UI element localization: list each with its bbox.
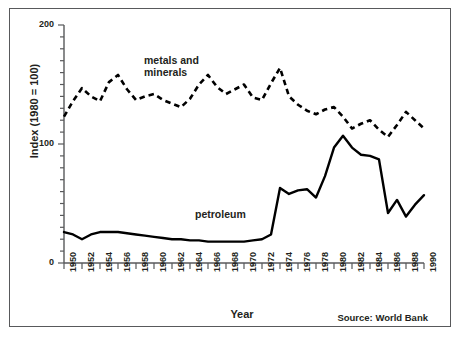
source-note: Source: World Bank	[337, 312, 428, 323]
x-tick-label: 1972	[266, 252, 276, 272]
x-tick-label: 1964	[194, 252, 204, 272]
x-tick-label: 1956	[122, 252, 132, 272]
y-tick-label: 200	[22, 19, 54, 29]
y-tick-label: 100	[22, 138, 54, 148]
x-tick-label: 1988	[410, 252, 420, 272]
series-line-petroleum	[64, 136, 424, 242]
x-tick-label: 1984	[374, 252, 384, 272]
y-tick-label: 0	[22, 257, 54, 267]
x-tick-label: 1978	[320, 252, 330, 272]
x-tick-label: 1990	[428, 252, 438, 272]
x-tick-label: 1962	[176, 252, 186, 272]
chart-figure: Index (1980 = 100) Year Source: World Ba…	[0, 0, 464, 343]
series-annotation-metals-and-minerals: metals and minerals	[144, 55, 199, 79]
x-tick-label: 1968	[230, 252, 240, 272]
x-tick-label: 1982	[356, 252, 366, 272]
x-tick-label: 1952	[86, 252, 96, 272]
x-tick-label: 1966	[212, 252, 222, 272]
x-tick-label: 1960	[158, 252, 168, 272]
y-axis-title: Index (1980 = 100)	[28, 41, 40, 181]
x-tick-label: 1970	[248, 252, 258, 272]
x-tick-label: 1986	[392, 252, 402, 272]
x-tick-label: 1980	[338, 252, 348, 272]
series-annotation-petroleum: petroleum	[195, 209, 246, 221]
series-line-metals-and-minerals	[64, 68, 424, 137]
x-tick-label: 1974	[284, 252, 294, 272]
x-tick-label: 1976	[302, 252, 312, 272]
x-tick-label: 1958	[140, 252, 150, 272]
x-tick-label: 1950	[68, 252, 78, 272]
chart-frame: Index (1980 = 100) Year Source: World Ba…	[9, 8, 451, 327]
chart-plot-area	[10, 9, 450, 326]
x-tick-label: 1954	[104, 252, 114, 272]
